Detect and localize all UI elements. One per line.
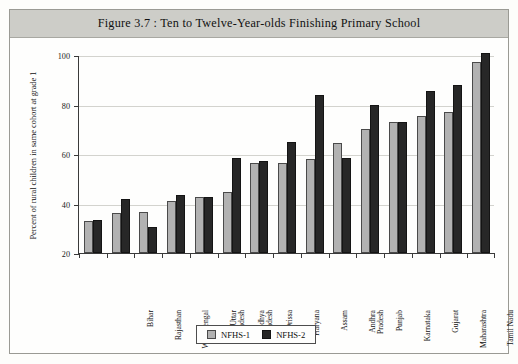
bar-group bbox=[134, 55, 162, 253]
bar bbox=[223, 192, 232, 253]
x-axis-label: Gujarat bbox=[452, 310, 460, 362]
bar bbox=[84, 221, 93, 253]
bar bbox=[250, 163, 259, 253]
bar bbox=[472, 62, 481, 253]
bar bbox=[148, 227, 157, 253]
bar bbox=[306, 159, 315, 253]
y-axis-title-text: Percent of rural children in same cohort… bbox=[29, 71, 38, 239]
bar bbox=[370, 105, 379, 254]
x-axis-label: Andhra Pradesh bbox=[369, 310, 385, 362]
bar bbox=[426, 91, 435, 253]
bar-group bbox=[412, 55, 440, 253]
x-axis-tick bbox=[494, 253, 495, 258]
bar-group bbox=[356, 55, 384, 253]
y-axis-tick-label: 100 bbox=[58, 52, 70, 61]
bar bbox=[389, 122, 398, 253]
chart-legend: NFHS-1NFHS-2 bbox=[196, 325, 316, 344]
bar bbox=[481, 53, 490, 253]
x-axis-label: Bihar bbox=[147, 310, 155, 362]
bar-group bbox=[440, 55, 468, 253]
bar bbox=[121, 199, 130, 253]
y-axis-tick-label: 20 bbox=[62, 250, 70, 259]
bar bbox=[315, 95, 324, 253]
bar bbox=[333, 143, 342, 253]
figure-title-band: Figure 3.7 : Ten to Twelve-Year-olds Fin… bbox=[10, 10, 508, 38]
x-axis-label: Rajasthan bbox=[175, 310, 183, 362]
x-axis-label: Karnataka bbox=[424, 310, 432, 362]
bar-group bbox=[329, 55, 357, 253]
y-axis-tick-label: 40 bbox=[62, 200, 70, 209]
bar-group bbox=[218, 55, 246, 253]
bar bbox=[287, 142, 296, 253]
x-axis-label: Punjab bbox=[396, 310, 404, 362]
bar-group bbox=[467, 55, 495, 253]
figure-page: Figure 3.7 : Ten to Twelve-Year-olds Fin… bbox=[0, 0, 518, 364]
x-axis-label: Maharashtra bbox=[480, 310, 488, 362]
bar bbox=[453, 85, 462, 253]
bar bbox=[342, 158, 351, 253]
y-axis-title: Percent of rural children in same cohort… bbox=[26, 56, 40, 254]
bar bbox=[112, 213, 121, 253]
bar-group bbox=[273, 55, 301, 253]
legend-item: NFHS-2 bbox=[262, 330, 305, 340]
bar bbox=[232, 158, 241, 253]
legend-swatch bbox=[262, 330, 271, 339]
bar bbox=[444, 112, 453, 253]
x-axis-label: Assam bbox=[341, 310, 349, 362]
x-axis-label: Tamil Nadu bbox=[507, 310, 515, 362]
bar-group bbox=[79, 55, 107, 253]
bar bbox=[398, 122, 407, 253]
bar-group bbox=[190, 55, 218, 253]
bar bbox=[417, 116, 426, 253]
bar bbox=[195, 197, 204, 253]
page-title: Figure 3.7 : Ten to Twelve-Year-olds Fin… bbox=[98, 16, 421, 31]
bar-group bbox=[162, 55, 190, 253]
bar-group bbox=[384, 55, 412, 253]
legend-item: NFHS-1 bbox=[207, 330, 250, 340]
bars-layer bbox=[79, 56, 494, 253]
y-axis-tick-label: 80 bbox=[62, 101, 70, 110]
bar bbox=[204, 197, 213, 253]
bar bbox=[278, 163, 287, 253]
legend-label: NFHS-1 bbox=[221, 330, 250, 340]
bar bbox=[259, 161, 268, 253]
x-axis-labels: BiharRajasthanWest BengalUttar PradeshMa… bbox=[78, 258, 494, 310]
bar-group bbox=[301, 55, 329, 253]
bar-group bbox=[245, 55, 273, 253]
bar bbox=[139, 212, 148, 253]
plot-area: 20406080100 bbox=[78, 56, 494, 254]
legend-swatch bbox=[207, 330, 216, 339]
y-axis-tick-label: 60 bbox=[62, 151, 70, 160]
bar bbox=[167, 201, 176, 253]
bar-group bbox=[107, 55, 135, 253]
bar bbox=[93, 220, 102, 253]
bar bbox=[361, 129, 370, 253]
legend-label: NFHS-2 bbox=[276, 330, 305, 340]
bar bbox=[176, 195, 185, 253]
